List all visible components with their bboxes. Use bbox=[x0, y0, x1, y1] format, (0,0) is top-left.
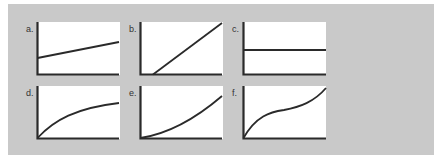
graph-c-plot bbox=[242, 22, 326, 76]
graph-a bbox=[36, 22, 120, 76]
graph-b-label: b. bbox=[129, 25, 137, 34]
graph-f-label: f. bbox=[232, 89, 237, 98]
graph-c bbox=[242, 22, 326, 76]
graph-e-plot bbox=[139, 86, 223, 140]
graph-f-plot bbox=[242, 86, 326, 140]
graph-a-label: a. bbox=[26, 25, 34, 34]
graph-b bbox=[139, 22, 223, 76]
graph-e bbox=[139, 86, 223, 140]
graph-b-plot bbox=[139, 22, 223, 76]
graph-e-label: e. bbox=[129, 89, 137, 98]
graph-d bbox=[36, 86, 120, 140]
graph-d-label: d. bbox=[26, 89, 34, 98]
graph-d-plot bbox=[36, 86, 120, 140]
graph-a-plot bbox=[36, 22, 120, 76]
graph-f bbox=[242, 86, 326, 140]
graph-c-label: c. bbox=[232, 25, 239, 34]
